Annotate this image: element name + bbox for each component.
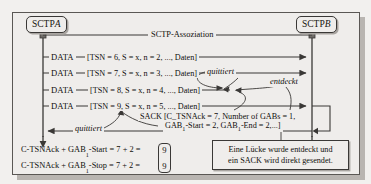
annotation-quittiert-top: quittiert	[205, 67, 236, 77]
message-params-2: [TSN = 7, S = x, n = 3, ..., Daten]	[85, 69, 199, 78]
sack-line-1: SACK [C_TSNAck = 7, Number of GABs = 1,	[138, 112, 297, 121]
calc-2-result: 9	[158, 161, 171, 171]
message-params-3: [TSN = 8, S = x, n = 4, ..., Daten]	[88, 86, 202, 95]
calc-1-sub: 1	[86, 151, 89, 158]
message-params-4: [TSN = 9, S = x, n = 5, ..., Daten]	[88, 102, 202, 111]
note-box: Eine Lücke wurde entdeckt und ein SACK w…	[212, 140, 349, 170]
message-params-1: [TSN = 6, S = x, n = 2, ..., Daten]	[85, 53, 199, 62]
note-line-1: Eine Lücke wurde entdeckt und	[217, 144, 344, 155]
sack-gab-suffix: -End = 2,...]	[241, 121, 281, 130]
endpoint-a-id: A	[55, 19, 61, 29]
message-label-4: DATA	[49, 101, 76, 111]
sack-line-2: GAB1-Start = 2, GAB1-End = 2,...]	[163, 121, 283, 132]
sack-gab-prefix: GAB	[165, 121, 182, 130]
calc-2-prefix: C-TSNAck + GAB	[21, 161, 86, 170]
endpoint-a-name: SCTP	[32, 19, 55, 29]
message-label-3: DATA	[49, 85, 76, 95]
endpoint-b-name: SCTP	[302, 19, 325, 29]
endpoint-b-id: B	[325, 19, 331, 29]
message-label-1: DATA	[49, 52, 76, 62]
endpoint-b-box: SCTPB	[296, 16, 337, 33]
annotation-entdeckt: entdeckt	[268, 77, 300, 87]
endpoint-a-box: SCTPA	[26, 16, 67, 33]
calculation-row-2: C-TSNAck + GAB1-Stop = 7 + 2 =	[21, 161, 140, 172]
association-label: SCTP-Assoziation	[148, 30, 216, 39]
calc-1-prefix: C-TSNAck + GAB	[21, 145, 86, 154]
calc-1-suffix: -Start = 7 + 2 =	[89, 145, 141, 154]
calculation-row-1: C-TSNAck + GAB1-Start = 7 + 2 =	[21, 145, 140, 156]
sctp-sequence-diagram: SCTPA SCTPB SCTP-Assoziation DATA [TSN =…	[0, 0, 371, 184]
calc-2-suffix: -Stop = 7 + 2 =	[89, 161, 140, 170]
annotation-quittiert-bottom: quittiert	[73, 124, 104, 134]
calc-2-sub: 1	[86, 167, 89, 174]
message-label-2: DATA	[49, 68, 76, 78]
calc-1-result: 9	[158, 145, 171, 155]
sack-gab-mid: -Start = 2, GAB	[185, 121, 237, 130]
note-line-2: ein SACK wird direkt gesendet.	[217, 155, 344, 166]
